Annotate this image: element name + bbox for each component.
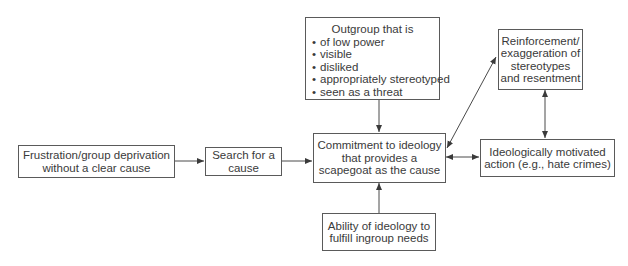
node-search: Search for a cause xyxy=(205,147,282,176)
node-reinforcement-line-4: and resentment xyxy=(501,72,581,85)
node-outgroup-item: seen as a threat xyxy=(312,86,433,99)
node-ability-line-2: fulfill ingroup needs xyxy=(329,232,428,245)
node-frustration-line-1: Frustration/group deprivation xyxy=(23,149,170,162)
node-ability-line-1: Ability of ideology to xyxy=(328,220,430,233)
node-search-line-2: cause xyxy=(228,162,259,175)
node-outgroup-heading: Outgroup that is xyxy=(312,23,433,36)
node-outgroup-list: of low power visible disliked appropriat… xyxy=(312,36,433,99)
node-reinforcement-line-1: Reinforcement/ xyxy=(502,35,580,48)
node-outgroup-item: of low power xyxy=(312,36,433,49)
node-outgroup-item: appropriately stereotyped xyxy=(312,73,433,86)
node-frustration-line-2: without a clear cause xyxy=(42,162,150,175)
edge-commitment-reinforcement xyxy=(447,57,496,148)
node-commitment-line-1: Commitment to ideology xyxy=(318,139,442,152)
node-ability: Ability of ideology to fulfill ingroup n… xyxy=(322,213,436,251)
node-reinforcement: Reinforcement/ exaggeration of stereotyp… xyxy=(498,29,583,90)
node-reinforcement-line-2: exaggeration of xyxy=(501,47,580,60)
node-action-line-2: action (e.g., hate crimes) xyxy=(484,158,611,171)
node-commitment: Commitment to ideology that provides a s… xyxy=(313,133,446,183)
node-action: Ideologically motivated action (e.g., ha… xyxy=(480,139,615,177)
node-search-line-1: Search for a xyxy=(212,149,275,162)
node-commitment-line-2: that provides a xyxy=(342,152,417,165)
node-outgroup-item: visible xyxy=(312,48,433,61)
node-commitment-line-3: scapegoat as the cause xyxy=(319,164,440,177)
node-outgroup: Outgroup that is of low power visible di… xyxy=(305,17,440,100)
node-outgroup-item: disliked xyxy=(312,61,433,74)
node-reinforcement-line-3: stereotypes xyxy=(511,60,570,73)
node-action-line-1: Ideologically motivated xyxy=(489,146,605,159)
node-frustration: Frustration/group deprivation without a … xyxy=(18,145,175,178)
